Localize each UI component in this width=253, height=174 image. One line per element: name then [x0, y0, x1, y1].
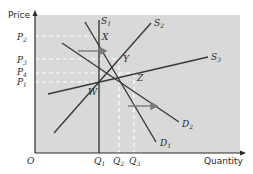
price-label-p1: P1: [16, 77, 27, 88]
price-label-p3: P3: [16, 55, 27, 66]
x-axis-label: Quantity: [204, 156, 244, 166]
quantity-label-q2: Q2: [113, 156, 124, 167]
quantity-label-q3: Q3: [129, 156, 140, 167]
point-label-w: W: [88, 87, 98, 97]
point-label-x: X: [101, 32, 109, 42]
origin-label: O: [27, 156, 35, 166]
point-label-y: Y: [123, 54, 130, 64]
quantity-label-q1: Q1: [94, 156, 105, 167]
supply-demand-diagram: Price Quantity O P2 P3 P4 P1 Q1 Q2 Q3 S1…: [0, 0, 253, 174]
point-label-z: Z: [136, 73, 144, 83]
price-label-p2: P2: [16, 32, 27, 43]
y-axis-arrow-icon: [33, 10, 38, 16]
y-axis-label: Price: [8, 10, 30, 20]
x-axis-arrow-icon: [240, 151, 246, 156]
